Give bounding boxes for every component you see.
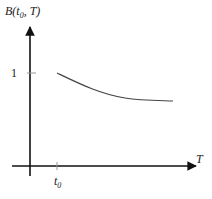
x-axis-label: T: [196, 152, 204, 166]
y-tick-label-one: 1: [11, 66, 17, 80]
x-tick-label-t0: t0: [54, 174, 61, 190]
discount-curve: [57, 73, 173, 101]
chart-canvas: B(t0, T) 1 T t0: [0, 0, 212, 199]
y-axis-label: B(t0, T): [5, 4, 40, 20]
